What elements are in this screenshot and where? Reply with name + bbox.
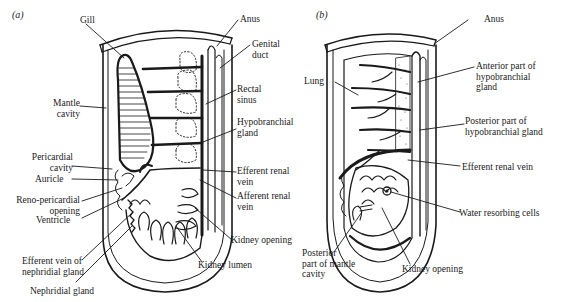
label-hypobranchial-gland: Hypobranchial gland	[237, 117, 293, 138]
label-efferent-renal-vein-b: Efferent renal vein	[462, 162, 533, 173]
label-mantle-cavity: Mantle cavity	[40, 98, 80, 119]
label-nephridial-gland: Nephridial gland	[30, 286, 94, 297]
label-gill: Gill	[80, 15, 95, 26]
label-genital-duct: Genital duct	[252, 39, 280, 60]
label-anterior-hypobranchial-gland: Anterior part of hypobranchial gland	[476, 61, 536, 93]
label-lung: Lung	[304, 76, 324, 87]
label-anus-a: Anus	[240, 14, 260, 25]
anatomical-drawing	[0, 0, 561, 302]
figure: (a) Gill Mantle cavity Pericardial cavit…	[0, 0, 561, 302]
label-auricle: Auricle	[35, 174, 64, 185]
label-kidney-lumen: Kidney lumen	[198, 260, 252, 271]
label-anus-b: Anus	[484, 14, 504, 25]
label-kidney-opening-b: Kidney opening	[402, 264, 463, 275]
label-ventricle: Ventricle	[36, 215, 70, 226]
label-efferent-vein-nephridial-gland: Efferent vein of nephridial gland	[22, 256, 84, 277]
label-posterior-hypobranchial-gland: Posterior part of hypobranchial gland	[465, 116, 543, 137]
panel-a-drawing	[100, 30, 232, 292]
panel-b-tag: (b)	[316, 10, 328, 21]
label-rectal-sinus: Rectal sinus	[237, 84, 261, 105]
label-afferent-renal-vein: Afferent renal vein	[237, 191, 290, 212]
label-efferent-renal-vein-a: Efferent renal vein	[237, 166, 289, 187]
panel-a-tag: (a)	[12, 10, 24, 21]
label-posterior-mantle-cavity: Posterior part of mantle cavity	[302, 248, 355, 280]
label-reno-pericardial-opening: Reno-pericardial opening	[0, 195, 80, 216]
label-pericardial-cavity: Pericardial cavity	[10, 152, 73, 173]
label-water-resorbing-cells: Water resorbing cells	[459, 208, 539, 219]
label-kidney-opening-a: Kidney opening	[231, 235, 292, 246]
